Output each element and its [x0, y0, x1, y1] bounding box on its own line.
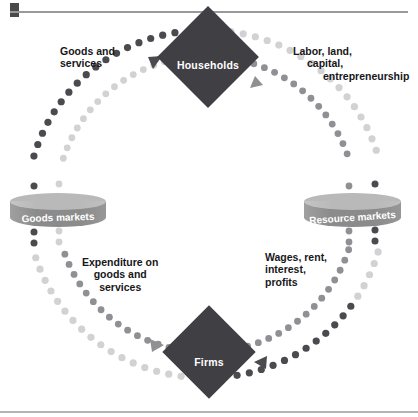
node-households-label: Households [158, 59, 258, 71]
arc-dot-outer [292, 351, 299, 358]
arrowhead-expenditure-to-firms [150, 339, 164, 352]
arc-dot-inner [331, 277, 338, 284]
arc-dot-inner [318, 295, 325, 302]
arc-dot-outer [44, 119, 51, 126]
arc-dot-outer [42, 277, 49, 284]
arc-dot-outer [34, 141, 41, 148]
arc-dot-inner [311, 303, 318, 310]
arc-dot-inner [90, 298, 97, 305]
arc-dot-inner [281, 74, 288, 81]
arc-dot-outer [69, 317, 76, 324]
arc-dot-outer [240, 30, 247, 37]
arc-dot-inner [261, 64, 268, 71]
arc-dot-inner [299, 87, 306, 94]
arc-dot-outer [322, 330, 329, 337]
arc-dot-inner [303, 311, 310, 318]
arc-dot-outer [74, 80, 81, 87]
arc-dot-outer [135, 39, 142, 46]
arc-dot-outer [269, 362, 276, 369]
arc-dot-outer [32, 254, 39, 261]
arc-dot-outer [51, 108, 58, 115]
arc-dot-inner [329, 121, 336, 128]
arc-dot-over-cylinder [31, 240, 38, 247]
arc-dot-outer [108, 348, 115, 355]
flow-label-wages-rent: Wages, rent, interest, profits [265, 251, 327, 288]
diagram-canvas: Households Firms Goods markets Resource … [0, 0, 418, 417]
flow-label-line: Goods and [60, 45, 115, 57]
arc-dot-inner [66, 261, 73, 268]
arc-dot-inner [60, 155, 67, 162]
arc-dot-outer [313, 338, 320, 345]
arc-dot-inner [111, 83, 118, 90]
arc-dot-outer [83, 71, 90, 78]
arc-dot-outer [331, 321, 338, 328]
flow-label-line: Wages, rent, [265, 251, 327, 263]
arc-dot-outer [165, 371, 172, 378]
arc-dot-outer [141, 364, 148, 371]
arc-dot-inner [102, 90, 109, 97]
flow-label-line: Expenditure on [82, 256, 158, 268]
arc-dot-inner [335, 130, 342, 137]
arc-dot-outer [124, 44, 131, 51]
flow-label-expenditure: Expenditure on goods and services [82, 256, 158, 293]
arc-dot-over-cylinder [346, 183, 353, 190]
arc-dot-inner [271, 69, 278, 76]
arc-dot-outer [347, 303, 354, 310]
arc-dot-outer [252, 33, 259, 40]
arc-dot-outer [30, 152, 37, 159]
node-goods-markets[interactable]: Goods markets [10, 193, 106, 231]
arc-dot-inner [120, 77, 127, 84]
arc-dot-over-cylinder [56, 239, 63, 246]
arc-dot-inner [265, 335, 272, 342]
arc-dot-over-cylinder [372, 238, 379, 245]
arc-dot-outer [54, 298, 61, 305]
arc-dot-outer [65, 89, 72, 96]
arc-dot-outer [363, 124, 370, 131]
arc-dot-over-cylinder [346, 239, 353, 246]
arc-dot-outer [58, 98, 65, 105]
arc-dot-outer [264, 37, 271, 44]
arc-dot-outer [159, 32, 166, 39]
flow-label-labor-land-capital: Labor, land, capital, entrepreneurship [293, 45, 409, 82]
arc-dot-outer [118, 354, 125, 361]
arc-dot-outer [373, 147, 380, 154]
arc-dot-outer [343, 93, 350, 100]
arc-dot-outer [357, 113, 364, 120]
flow-label-line: goods and [82, 268, 158, 280]
arc-dot-outer [281, 357, 288, 364]
arc-dot-outer [97, 341, 104, 348]
arc-dot-inner [144, 337, 151, 344]
arc-dot-inner [61, 251, 68, 258]
arc-dot-over-cylinder [372, 181, 379, 188]
arc-dot-outer [61, 308, 68, 315]
arc-dot-outer [246, 369, 253, 376]
arc-dot-inner [64, 144, 71, 151]
arc-dot-inner [130, 71, 137, 78]
arc-dot-inner [315, 103, 322, 110]
arrowhead-resources-to-households [250, 76, 263, 88]
arc-dot-outer [371, 260, 378, 267]
arc-dot-outer [36, 266, 43, 273]
arc-dot-outer [78, 326, 85, 333]
arc-dot-outer [275, 41, 282, 48]
flow-label-line: profits [265, 276, 327, 288]
arc-dot-outer [303, 345, 310, 352]
arc-dot-inner [140, 66, 147, 73]
node-resource-markets[interactable]: Resource markets [304, 193, 401, 231]
arc-dot-over-cylinder [31, 183, 38, 190]
arc-dot-inner [294, 318, 301, 325]
arc-dot-outer [354, 293, 361, 300]
arc-dot-inner [98, 306, 105, 313]
arc-dot-inner [80, 115, 87, 122]
arc-dot-inner [308, 95, 315, 102]
arc-dot-inner [71, 271, 78, 278]
arc-dot-inner [337, 267, 344, 274]
arc-dot-outer [368, 135, 375, 142]
arc-dot-outer [130, 359, 137, 366]
arc-dot-inner [124, 327, 131, 334]
flow-label-line: capital, [293, 57, 409, 69]
flow-label-line: services [82, 281, 158, 293]
arc-dot-inner [344, 150, 351, 157]
arc-dot-inner [275, 330, 282, 337]
arc-dot-inner [255, 339, 262, 346]
